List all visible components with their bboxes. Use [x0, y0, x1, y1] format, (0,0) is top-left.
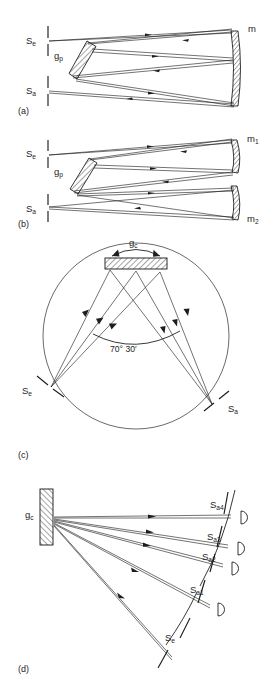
panel-c-incident-rays [51, 270, 160, 387]
panel-a-label: (a) [18, 106, 29, 116]
panel-b-grating-label: gp [54, 166, 63, 179]
panel-b: Se Sa m1 m2 gp [18, 133, 259, 229]
panel-a-grating-label: gp [54, 50, 63, 63]
panel-a-mirror-label: m [248, 23, 256, 34]
panel-a-grating [69, 41, 96, 79]
panel-c-entrance-slit [37, 376, 64, 397]
panel-d-exit-slit-label-4: Sa4 [210, 499, 224, 511]
panel-a: Se Sa m gp [18, 23, 256, 116]
panel-d-exit-slit-label-1: Sa1 [190, 584, 204, 596]
optical-mounts-figure: Se Sa m gp [0, 0, 273, 686]
panel-b-mirror-1 [231, 140, 240, 173]
panel-b-entrance-slit-label: Se [26, 148, 36, 160]
panel-b-exit-slit-label: Sa [26, 203, 36, 215]
panel-d-label: (d) [18, 664, 29, 674]
panel-a-entrance-slit-label: Se [26, 35, 36, 47]
panel-c-grating [105, 258, 167, 269]
panel-b-mirror-1-label: m1 [247, 133, 259, 145]
panel-c-angle-arc [93, 331, 180, 344]
panel-c-angle-label: 70° 30′ [110, 344, 137, 354]
panel-c-rowland-circle [43, 243, 229, 429]
panel-d-detector-3 [232, 562, 239, 575]
panel-c-rotation-arrow [112, 250, 160, 257]
panel-c-exit-slit-label: Sa [228, 403, 238, 415]
panel-a-exit-slit-label: Sa [26, 85, 36, 97]
panel-d-detector-4 [218, 603, 225, 616]
panel-d-grating [40, 489, 53, 545]
panel-b-label: (b) [18, 219, 29, 229]
panel-c: gc Se Sa [18, 237, 238, 460]
figure-root: Se Sa m gp [0, 0, 273, 686]
panel-d-exit-slit-label-3: Sa3 [207, 531, 221, 543]
panel-c-label: (c) [18, 450, 29, 460]
panel-a-mirror [231, 31, 241, 106]
panel-d-grating-label: gc [25, 509, 34, 521]
panel-c-grating-label: gc [129, 237, 138, 249]
panel-d-detector-2 [238, 542, 245, 555]
panel-d-exit-slit-label-2: Sa2 [202, 551, 216, 563]
panel-c-diffracted-rays [110, 270, 212, 404]
panel-d-detector-1 [241, 511, 248, 524]
panel-c-entrance-slit-label: Se [22, 385, 32, 397]
panel-d-rays [54, 515, 231, 661]
panel-b-mirror-2-label: m2 [247, 213, 259, 225]
cropped-header-text [0, 0, 273, 7]
panel-d: gc [18, 489, 248, 674]
